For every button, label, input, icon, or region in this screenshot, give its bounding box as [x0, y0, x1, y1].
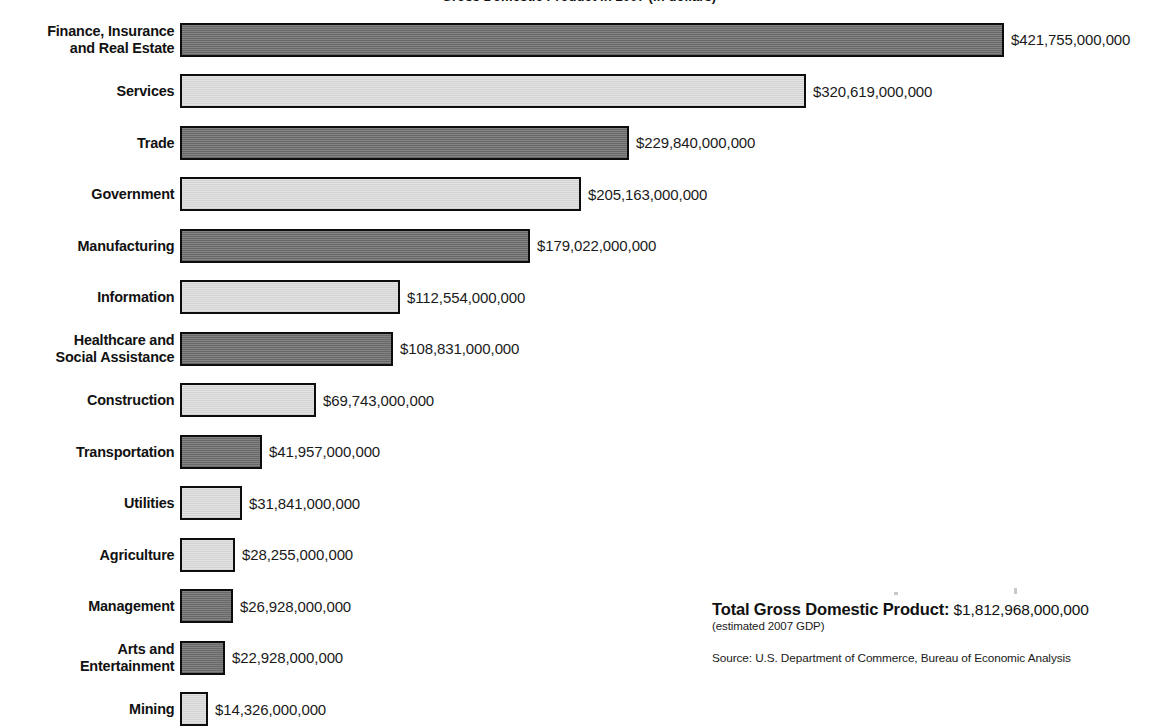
- bar-value-label: $26,928,000,000: [240, 598, 351, 615]
- category-label: Services: [13, 83, 180, 99]
- category-label: Healthcare and Social Assistance: [13, 332, 180, 365]
- bar-container: $108,831,000,000: [180, 323, 1158, 375]
- bar-container: $41,957,000,000: [180, 426, 1158, 478]
- bar: [180, 692, 208, 726]
- bar-row: Information$112,554,000,000: [0, 272, 1158, 324]
- bar: [180, 383, 316, 417]
- bar-container: $179,022,000,000: [180, 220, 1158, 272]
- category-label: Finance, Insurance and Real Estate: [13, 23, 180, 56]
- bar-container: $205,163,000,000: [180, 169, 1158, 221]
- bar-value-label: $31,841,000,000: [249, 495, 360, 512]
- total-gdp-note: (estimated 2007 GDP): [712, 620, 1142, 632]
- bar-row: Manufacturing$179,022,000,000: [0, 220, 1158, 272]
- category-label: Mining: [13, 701, 180, 717]
- bar-row: Mining$14,326,000,000: [0, 684, 1158, 728]
- bar-container: $69,743,000,000: [180, 375, 1158, 427]
- bar-value-label: $205,163,000,000: [588, 186, 707, 203]
- bar-value-label: $14,326,000,000: [215, 701, 326, 718]
- bar-container: $229,840,000,000: [180, 117, 1158, 169]
- bar: [180, 280, 400, 314]
- bar: [180, 177, 581, 211]
- bar-row: Services$320,619,000,000: [0, 66, 1158, 118]
- bar-row: Transportation$41,957,000,000: [0, 426, 1158, 478]
- total-gdp-value: $1,812,968,000,000: [954, 601, 1089, 618]
- category-label: Utilities: [13, 495, 180, 511]
- bar: [180, 486, 242, 520]
- bar-value-label: $229,840,000,000: [636, 134, 755, 151]
- bar: [180, 589, 233, 623]
- category-label: Government: [13, 186, 180, 202]
- bar-container: $112,554,000,000: [180, 272, 1158, 324]
- bar: [180, 641, 225, 675]
- category-label: Agriculture: [13, 547, 180, 563]
- gdp-bar-chart: Gross Domestic Product in 2007 (in dolla…: [0, 0, 1158, 728]
- bar-row: Trade$229,840,000,000: [0, 117, 1158, 169]
- category-label: Arts and Entertainment: [13, 641, 180, 674]
- chart-footer: Total Gross Domestic Product: $1,812,968…: [712, 600, 1142, 665]
- bar-value-label: $28,255,000,000: [242, 546, 353, 563]
- category-label: Manufacturing: [13, 238, 180, 254]
- bar-container: $28,255,000,000: [180, 529, 1158, 581]
- category-label: Management: [13, 598, 180, 614]
- bar-value-label: $69,743,000,000: [323, 392, 434, 409]
- chart-title: Gross Domestic Product in 2007 (in dolla…: [0, 0, 1158, 4]
- scan-speck: [894, 592, 898, 595]
- bar-row: Construction$69,743,000,000: [0, 375, 1158, 427]
- bar-container: $421,755,000,000: [180, 14, 1158, 66]
- bar: [180, 229, 530, 263]
- bar-row: Government$205,163,000,000: [0, 169, 1158, 221]
- bar-value-label: $41,957,000,000: [269, 443, 380, 460]
- category-label: Transportation: [13, 444, 180, 460]
- category-label: Information: [13, 289, 180, 305]
- bar: [180, 435, 262, 469]
- scan-speck: [1014, 588, 1017, 594]
- bar: [180, 23, 1004, 57]
- bar: [180, 332, 393, 366]
- bar-value-label: $421,755,000,000: [1011, 31, 1130, 48]
- bar-value-label: $22,928,000,000: [232, 649, 343, 666]
- bar-value-label: $179,022,000,000: [537, 237, 656, 254]
- bar-row: Utilities$31,841,000,000: [0, 478, 1158, 530]
- bar-value-label: $112,554,000,000: [407, 289, 525, 306]
- bar: [180, 538, 235, 572]
- source-attribution: Source: U.S. Department of Commerce, Bur…: [712, 651, 1142, 665]
- bar: [180, 74, 806, 108]
- bar-value-label: $108,831,000,000: [400, 340, 519, 357]
- total-gdp-line: Total Gross Domestic Product: $1,812,968…: [712, 600, 1142, 619]
- bar-value-label: $320,619,000,000: [813, 83, 932, 100]
- bar-container: $14,326,000,000: [180, 684, 1158, 728]
- bar-row: Finance, Insurance and Real Estate$421,7…: [0, 14, 1158, 66]
- bar-row: Agriculture$28,255,000,000: [0, 529, 1158, 581]
- bar-container: $31,841,000,000: [180, 478, 1158, 530]
- category-label: Construction: [13, 392, 180, 408]
- bar-row: Healthcare and Social Assistance$108,831…: [0, 323, 1158, 375]
- category-label: Trade: [13, 135, 180, 151]
- bar-container: $320,619,000,000: [180, 66, 1158, 118]
- bar: [180, 126, 629, 160]
- total-gdp-label: Total Gross Domestic Product:: [712, 600, 949, 618]
